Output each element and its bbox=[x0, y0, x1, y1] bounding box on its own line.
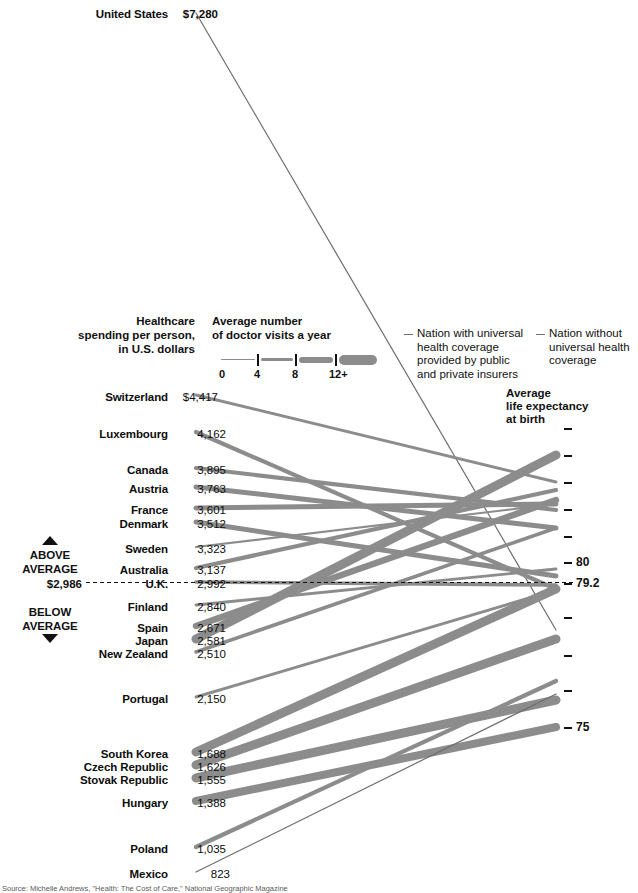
country-name-label: Japan bbox=[0, 635, 168, 647]
country-name-label: France bbox=[0, 504, 168, 516]
visits-tick-0: 0 bbox=[219, 368, 225, 380]
visits-swatch-4-8 bbox=[261, 358, 293, 361]
country-name-label: Portugal bbox=[0, 693, 168, 705]
life-header-line3: at birth bbox=[506, 413, 626, 426]
country-spending-value: 2,671 bbox=[180, 622, 226, 634]
country-spending-value: 2,992 bbox=[180, 578, 226, 590]
country-spending-value: 3,512 bbox=[180, 518, 226, 530]
visits-tick-12p: 12+ bbox=[329, 368, 348, 380]
country-name-label: Denmark bbox=[0, 518, 168, 530]
country-spending-value: 4,162 bbox=[180, 428, 226, 440]
axis-label-79-2: 79.2 bbox=[576, 576, 599, 590]
country-spending-value: 1,626 bbox=[180, 761, 226, 773]
axis-tick-mark bbox=[564, 536, 572, 538]
spending-header: Healthcare spending per person, in U.S. … bbox=[10, 314, 195, 356]
below-average-line1: BELOW bbox=[0, 605, 100, 619]
visits-thickness-legend bbox=[221, 352, 371, 368]
country-name-label: Austria bbox=[0, 483, 168, 495]
country-spending-value: 1,555 bbox=[180, 774, 226, 786]
country-slope-line bbox=[196, 694, 556, 872]
country-spending-value: 3,323 bbox=[180, 543, 226, 555]
country-name-label: South Korea bbox=[0, 748, 168, 760]
life-header-line2: life expectancy bbox=[506, 400, 626, 413]
country-spending-value: 2,510 bbox=[180, 648, 226, 660]
visits-swatch-0-4 bbox=[221, 359, 255, 360]
legend-with-line2: health coverage bbox=[417, 341, 527, 355]
country-name-label: Czech Republic bbox=[0, 761, 168, 773]
spending-header-line2: spending per person, bbox=[10, 328, 195, 342]
visits-divider-3 bbox=[335, 354, 337, 366]
country-name-label: Mexico bbox=[0, 868, 168, 880]
visits-header-line2: of doctor visits a year bbox=[212, 328, 392, 342]
above-average-arrow-icon bbox=[42, 536, 58, 545]
legend-without-line3: coverage bbox=[549, 354, 638, 368]
axis-tick-mark bbox=[564, 428, 572, 430]
legend-with-line3: provided by public bbox=[417, 354, 527, 368]
axis-tick-mark bbox=[564, 509, 572, 511]
country-spending-value: 1,688 bbox=[180, 748, 226, 760]
legend-without-line2: universal health bbox=[549, 341, 638, 355]
above-average-label: ABOVE AVERAGE bbox=[0, 548, 100, 576]
legend-without-universal-text: Nation without universal health coverage bbox=[549, 327, 638, 368]
country-spending-value: $4,417 bbox=[172, 391, 218, 403]
axis-tick-mark bbox=[564, 617, 572, 619]
country-spending-value: 2,150 bbox=[180, 693, 226, 705]
country-slope-line bbox=[196, 569, 556, 605]
country-spending-value: 3,763 bbox=[180, 483, 226, 495]
axis-tick-mark bbox=[564, 727, 572, 729]
legend-dash-without-universal bbox=[536, 334, 545, 335]
axis-tick-mark bbox=[564, 562, 572, 564]
below-average-line2: AVERAGE bbox=[0, 619, 100, 633]
country-spending-value: 1,035 bbox=[180, 843, 226, 855]
country-slope-line bbox=[196, 504, 556, 508]
axis-label-80: 80 bbox=[576, 555, 589, 569]
axis-tick-mark bbox=[564, 655, 572, 657]
country-name-label: New Zealand bbox=[0, 648, 168, 660]
legend-dash-with-universal bbox=[404, 334, 413, 335]
visits-swatch-8-12 bbox=[299, 357, 333, 363]
country-name-label: Canada bbox=[0, 464, 168, 476]
country-name-label: Poland bbox=[0, 843, 168, 855]
country-spending-value: 2,581 bbox=[180, 635, 226, 647]
above-average-line2: AVERAGE bbox=[0, 562, 100, 576]
axis-tick-mark bbox=[564, 482, 572, 484]
average-value-label: $2,986 bbox=[6, 578, 82, 590]
country-spending-value: 1,388 bbox=[180, 797, 226, 809]
country-spending-value: 3,895 bbox=[180, 464, 226, 476]
country-name-label: Stovak Republic bbox=[0, 774, 168, 786]
country-name-label: Hungary bbox=[0, 797, 168, 809]
doctor-visits-header: Average number of doctor visits a year bbox=[212, 314, 392, 342]
axis-label-75: 75 bbox=[576, 720, 589, 734]
country-spending-value: 823 bbox=[184, 868, 230, 880]
legend-with-line1: Nation with universal bbox=[417, 327, 527, 341]
country-slope-line bbox=[196, 395, 556, 482]
axis-tick-mark bbox=[564, 690, 572, 692]
visits-divider-2 bbox=[295, 354, 297, 366]
country-spending-value: 3,601 bbox=[180, 504, 226, 516]
below-average-label: BELOW AVERAGE bbox=[0, 605, 100, 633]
legend-with-line4: and private insurers bbox=[417, 368, 527, 382]
visits-tick-8: 8 bbox=[292, 368, 298, 380]
legend-without-line1: Nation without bbox=[549, 327, 638, 341]
visits-divider-1 bbox=[257, 354, 259, 366]
life-expectancy-header: Average life expectancy at birth bbox=[506, 387, 626, 426]
country-name-label: Switzerland bbox=[0, 391, 168, 403]
country-slope-line bbox=[196, 639, 556, 765]
spending-header-line1: Healthcare bbox=[10, 314, 195, 328]
country-name-label: Luxembourg bbox=[0, 428, 168, 440]
legend-with-universal-text: Nation with universal health coverage pr… bbox=[417, 327, 527, 381]
source-note: Source: Michelle Andrews, "Health: The C… bbox=[2, 884, 636, 893]
above-average-line1: ABOVE bbox=[0, 548, 100, 562]
visits-tick-4: 4 bbox=[254, 368, 260, 380]
country-spending-value: $7,280 bbox=[172, 8, 218, 20]
country-name-label: United States bbox=[0, 8, 168, 20]
life-header-line1: Average bbox=[506, 387, 626, 400]
visits-header-line1: Average number bbox=[212, 314, 392, 328]
axis-tick-mark bbox=[564, 455, 572, 457]
visits-swatch-12p bbox=[339, 355, 377, 365]
country-spending-value: 3,137 bbox=[180, 564, 226, 576]
axis-tick-mark bbox=[564, 583, 572, 585]
below-average-arrow-icon bbox=[42, 634, 58, 643]
country-spending-value: 2,840 bbox=[180, 601, 226, 613]
spending-header-line3: in U.S. dollars bbox=[10, 342, 195, 356]
